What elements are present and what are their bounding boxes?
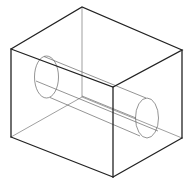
- hidden-bottom-left-edge: [11, 97, 82, 137]
- cylinder: [35, 56, 159, 138]
- cylinder-right-face: [136, 98, 159, 138]
- cylinder-bottom-line: [50, 98, 140, 137]
- bottom-left-edge: [11, 137, 113, 177]
- bottom-right-edge: [113, 138, 182, 177]
- cylinder-mid-line-a: [36, 81, 158, 131]
- top-face-outline: [11, 7, 182, 87]
- box-cylinder-diagram: [0, 0, 192, 185]
- hidden-edges: [11, 7, 182, 138]
- visible-edges: [11, 7, 182, 177]
